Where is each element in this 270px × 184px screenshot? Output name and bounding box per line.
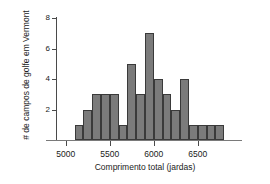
x-axis-tick <box>110 141 111 146</box>
x-axis-title: Comprimento total (jardas) <box>45 162 245 172</box>
y-axis-tick-label: 8 <box>32 14 50 22</box>
x-axis-tick-label: 5500 <box>93 149 127 159</box>
y-axis-tick-label: 6 <box>32 45 50 53</box>
x-axis-tick <box>198 141 199 146</box>
x-axis-tick <box>154 141 155 146</box>
y-axis-tick <box>52 110 57 111</box>
y-axis-ticks: 2468 <box>0 0 270 184</box>
y-axis-title-holder: # de campos de golfe em Vermont <box>8 0 22 160</box>
y-axis-tick <box>52 49 57 50</box>
x-axis-tick <box>66 141 67 146</box>
y-axis-title: # de campos de golfe em Vermont <box>21 5 31 145</box>
histogram-figure: 2468 # de campos de golfe em Vermont Com… <box>0 0 270 184</box>
x-axis-tick-label: 6000 <box>137 149 171 159</box>
y-axis-tick <box>52 79 57 80</box>
y-axis-tick-label: 2 <box>32 106 50 114</box>
x-axis-tick-label: 5000 <box>49 149 83 159</box>
x-axis-tick-label: 6500 <box>181 149 215 159</box>
y-axis-tick <box>52 18 57 19</box>
y-axis-tick-label: 4 <box>32 75 50 83</box>
